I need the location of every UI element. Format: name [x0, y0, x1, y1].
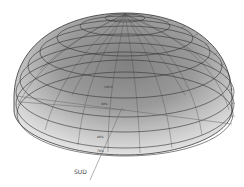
- direction-label-sud: SUD: [74, 168, 87, 175]
- ring-label: 80%: [97, 135, 104, 139]
- ring-label: 70%: [97, 149, 104, 153]
- ring-label: 90%: [101, 102, 108, 106]
- sky-dome-diagram: 100% 90% 80% 70% SUD: [0, 0, 244, 187]
- ring-label: 100%: [104, 85, 113, 89]
